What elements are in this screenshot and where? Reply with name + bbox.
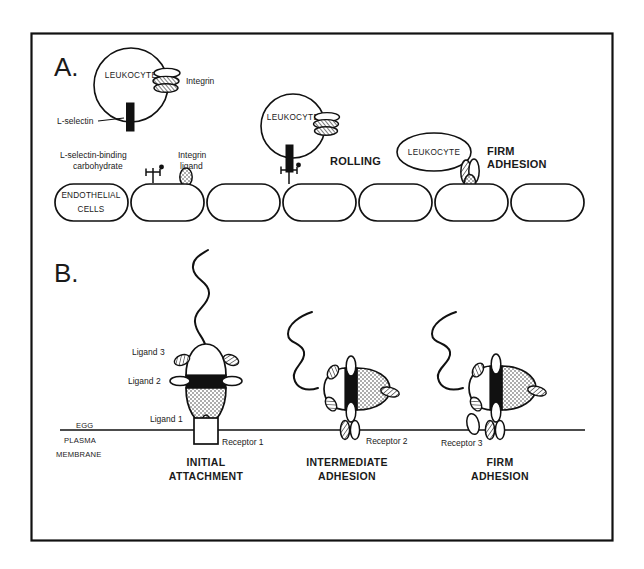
endothelial-cell <box>283 184 356 221</box>
ligand-2-paddle-left <box>170 376 190 385</box>
endothelial-cell <box>435 184 508 221</box>
endothelial-cell <box>511 184 584 221</box>
firm-adhesion-label-line2: ADHESION <box>487 158 547 170</box>
ligand-2-paddle-lower <box>491 402 501 422</box>
ligand-3-label: Ligand 3 <box>132 347 165 357</box>
stage-3-caption-line2: ADHESION <box>471 470 529 482</box>
leukocyte-3-label: LEUKOCYTE <box>408 148 461 157</box>
leukocyte-3: LEUKOCYTE <box>397 133 471 171</box>
ligand-1-label: Ligand 1 <box>150 414 183 424</box>
ligand-2-label: Ligand 2 <box>128 376 161 386</box>
receptor-1-box <box>194 418 218 444</box>
stage-1-caption-line1: INITIAL <box>187 456 226 468</box>
endothelial-label-line1: ENDOTHELIAL <box>61 191 120 200</box>
endothelial-cell <box>55 184 128 221</box>
endothelial-cell <box>359 184 432 221</box>
panel-b-letter: B. <box>54 258 79 288</box>
equatorial-band <box>186 375 226 388</box>
integrin-molecule-1 <box>153 68 180 92</box>
receptor-3-oval-right <box>495 421 504 440</box>
receptor-2-oval-left <box>340 421 349 440</box>
endothelial-label-line2: CELLS <box>78 205 105 214</box>
receptor-2-oval-right <box>350 421 359 440</box>
figure-canvas: A. LEUKOCYTE L-selectin Integrin L-selec… <box>0 0 644 569</box>
integrin-label: Integrin <box>186 76 215 86</box>
receptor-1-label: Receptor 1 <box>222 437 264 447</box>
diagram-svg: A. LEUKOCYTE L-selectin Integrin L-selec… <box>0 0 644 569</box>
stage-3-caption-line1: FIRM <box>487 456 514 468</box>
membrane-label-line2: PLASMA <box>64 436 97 445</box>
receptor-2-label: Receptor 2 <box>366 436 408 446</box>
integrin-ligand-label-line1: Integrin <box>178 150 207 160</box>
rolling-stage-label: ROLLING <box>330 155 381 167</box>
panel-a-letter: A. <box>54 52 79 82</box>
l-selectin-molecule-1 <box>127 103 135 131</box>
membrane-label-line1: EGG <box>76 421 93 430</box>
leukocyte-2-label: LEUKOCYTE <box>267 113 320 122</box>
membrane-label-line3: MEMBRANE <box>56 450 101 459</box>
endothelial-cell <box>131 184 204 221</box>
leukocyte-1-label: LEUKOCYTE <box>105 71 158 80</box>
carbohydrate-label-line1: L-selectin-binding <box>60 150 127 160</box>
receptor-3-label: Receptor 3 <box>441 438 483 448</box>
carbohydrate-label-line2: carbohydrate <box>73 161 123 171</box>
ligand-2-paddle-lower <box>346 402 356 422</box>
ligand-2-paddle-upper <box>346 356 356 376</box>
receptor-3-oval-left <box>485 421 494 440</box>
integrin-molecule-2 <box>314 113 340 136</box>
stage-2-caption-line1: INTERMEDIATE <box>306 456 388 468</box>
stage-1-caption-line2: ATTACHMENT <box>169 470 244 482</box>
ligand-2-paddle-upper <box>491 354 501 374</box>
endothelial-cell <box>207 184 280 221</box>
l-selectin-label: L-selectin <box>57 116 94 126</box>
firm-adhesion-label-line1: FIRM <box>487 145 515 157</box>
ligand-2-paddle-right <box>222 376 242 385</box>
stage-2-caption-line2: ADHESION <box>318 470 376 482</box>
